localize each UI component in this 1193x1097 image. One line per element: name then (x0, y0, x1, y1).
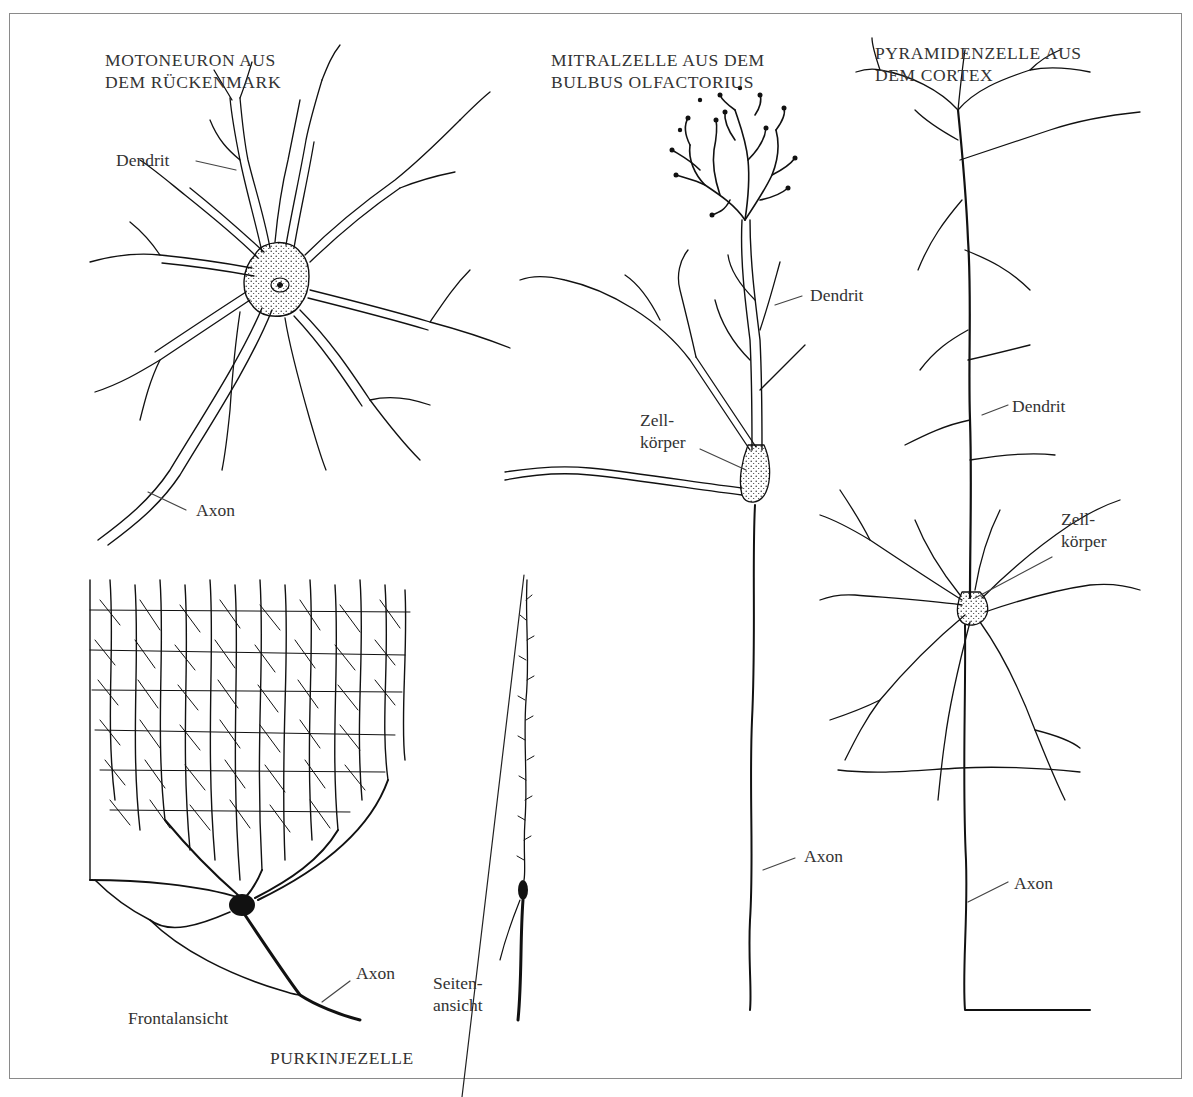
purkinje-frontal-drawing (90, 580, 410, 1020)
pyramidal-axon-label: Axon (1014, 872, 1053, 894)
mitral-title: MITRALZELLE AUS DEMBULBUS OLFACTORIUS (551, 49, 765, 93)
mitral-cell-drawing (505, 86, 805, 1010)
mitral-zellkoerper-label: Zell-körper (640, 409, 686, 453)
mitral-title-line1: MITRALZELLE AUS DEM (551, 50, 765, 70)
mitral-zellkoerper-line2: körper (640, 432, 686, 452)
motoneuron-title-line1: MOTONEURON AUS (105, 50, 276, 70)
mitral-axon-label: Axon (804, 845, 843, 867)
motoneuron-title-line2: DEM RÜCKENMARK (105, 72, 281, 92)
pyramidal-title: PYRAMIDENZELLE AUSDEM CORTEX (875, 42, 1082, 86)
motoneuron-title: MOTONEURON AUSDEM RÜCKENMARK (105, 49, 281, 93)
mitral-title-line2: BULBUS OLFACTORIUS (551, 72, 754, 92)
purkinje-title: PURKINJEZELLE (270, 1047, 414, 1069)
motoneuron-axon-label: Axon (196, 499, 235, 521)
pyramidal-zellkoerper-line1: Zell- (1061, 509, 1095, 529)
pyramidal-zellkoerper-line2: körper (1061, 531, 1107, 551)
motoneuron-dendrit-label: Dendrit (116, 149, 169, 171)
pyramidal-zellkoerper-label: Zell-körper (1061, 508, 1107, 552)
pyramidal-dendrit-label: Dendrit (1012, 395, 1065, 417)
pyramidal-title-line2: DEM CORTEX (875, 65, 993, 85)
purkinje-side-label: Seiten-ansicht (433, 972, 483, 1016)
purkinje-side-line2: ansicht (433, 995, 483, 1015)
purkinje-axon-label: Axon (356, 962, 395, 984)
mitral-zellkoerper-line1: Zell- (640, 410, 674, 430)
neuron-drawings (0, 0, 1193, 1097)
pyramidal-title-line1: PYRAMIDENZELLE AUS (875, 43, 1082, 63)
purkinje-side-drawing (462, 575, 534, 1097)
purkinje-side-line1: Seiten- (433, 973, 483, 993)
neuron-figure: MOTONEURON AUSDEM RÜCKENMARK MITRALZELLE… (0, 0, 1193, 1097)
purkinje-frontal-label: Frontalansicht (128, 1007, 228, 1029)
mitral-dendrit-label: Dendrit (810, 284, 863, 306)
motoneuron-drawing (90, 45, 510, 545)
